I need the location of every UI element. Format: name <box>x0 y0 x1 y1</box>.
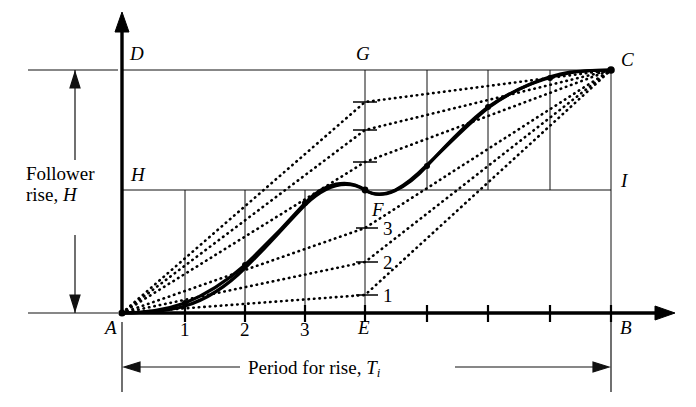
point-label-E: E <box>358 318 370 337</box>
point-label-C: C <box>621 50 634 69</box>
curve-nodes <box>118 66 614 316</box>
x-axis-arrowhead <box>655 306 675 320</box>
y-axis-arrowhead <box>115 12 129 32</box>
point-label-D: D <box>130 44 144 63</box>
x-tick-label-1: 1 <box>180 320 190 339</box>
division-label-1: 1 <box>383 286 393 305</box>
x-axis-title: Period for rise, Ti <box>248 357 380 381</box>
point-label-B: B <box>620 318 632 337</box>
curve-node-2 <box>242 262 248 268</box>
dim-arrow-right <box>593 362 609 372</box>
curve-node-F <box>362 187 369 194</box>
point-label-F: F <box>372 200 384 219</box>
axes <box>115 12 675 320</box>
x-axis-title-subscript: i <box>377 365 381 380</box>
point-label-A: A <box>105 318 117 337</box>
point-label-I: I <box>621 171 627 190</box>
dim-arrow-up <box>70 72 80 88</box>
point-label-G: G <box>356 44 370 63</box>
y-axis-title-line1: Follower <box>26 163 95 184</box>
y-axis-title: Follower rise, H <box>26 163 95 206</box>
curve-node-6 <box>485 104 491 110</box>
dim-arrow-down <box>70 295 80 311</box>
x-tick-label-3: 3 <box>300 320 310 339</box>
displacement-diagram-svg <box>0 0 696 407</box>
x-axis-title-symbol: T <box>366 357 377 378</box>
y-axis-title-line2: rise, H <box>26 184 77 205</box>
point-label-H: H <box>131 165 145 184</box>
dim-arrow-left <box>124 362 140 372</box>
division-label-3: 3 <box>383 219 393 238</box>
curve-node-5 <box>424 163 430 169</box>
x-tick-label-2: 2 <box>240 320 250 339</box>
division-label-2: 2 <box>383 253 393 272</box>
curve-node-C <box>607 66 615 74</box>
curve-node-3 <box>302 200 308 206</box>
curve-node-7 <box>547 75 553 81</box>
figure-container: D G C H I F A E B 1 2 3 3 2 1 Follower r… <box>0 0 696 407</box>
x-axis-title-text: Period for rise, <box>248 357 366 378</box>
